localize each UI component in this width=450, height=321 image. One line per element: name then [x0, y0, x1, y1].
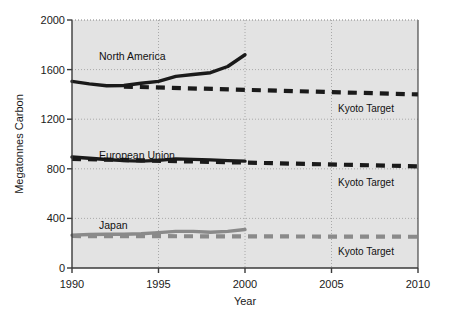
kyoto-target-label-japan: Kyoto Target — [338, 246, 394, 257]
series-annotation-north-america: North America — [99, 50, 166, 62]
y-tick-label-2000: 2000 — [41, 14, 65, 26]
x-tick-label-2010: 2010 — [406, 278, 430, 290]
y-tick-label-800: 800 — [47, 163, 65, 175]
emissions-line-chart: 2000 1600 1200 800 400 0 1990 1995 2000 … — [0, 0, 450, 321]
y-tick-label-1600: 1600 — [41, 64, 65, 76]
x-tick-label-1995: 1995 — [146, 278, 170, 290]
x-tick-label-1990: 1990 — [60, 278, 84, 290]
y-axis-title: Megatonnes Carbon — [13, 94, 25, 194]
x-tick-label-2005: 2005 — [319, 278, 343, 290]
x-axis-title: Year — [234, 295, 257, 307]
chart-canvas: 2000 1600 1200 800 400 0 1990 1995 2000 … — [0, 0, 450, 321]
series-annotation-japan: Japan — [99, 219, 128, 231]
x-tick-label-2000: 2000 — [233, 278, 257, 290]
kyoto-target-label-european-union: Kyoto Target — [338, 177, 394, 188]
y-tick-label-400: 400 — [47, 212, 65, 224]
series-annotation-european-union: European Union — [99, 149, 175, 161]
y-tick-label-0: 0 — [59, 262, 65, 274]
y-tick-label-1200: 1200 — [41, 113, 65, 125]
kyoto-target-label-north-america: Kyoto Target — [338, 103, 394, 114]
